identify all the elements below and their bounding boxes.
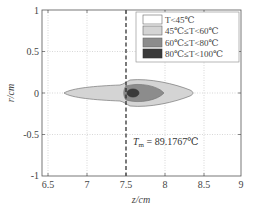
svg-text:9: 9 — [239, 179, 244, 190]
y-tick-labels: 1 0.5 0 -0.5 -1 — [23, 5, 39, 181]
contour-regions — [64, 80, 193, 107]
svg-text:6.5: 6.5 — [42, 179, 55, 190]
svg-text:0.5: 0.5 — [27, 46, 40, 57]
legend-label-below-45: T<45℃ — [165, 15, 195, 25]
legend: T<45℃ 45℃≤T<60℃ 60℃≤T<80℃ 80℃≤T<100℃ — [136, 12, 239, 62]
svg-text:7: 7 — [85, 179, 90, 190]
legend-label-80-100: 80℃≤T<100℃ — [165, 49, 223, 59]
svg-text:8: 8 — [163, 179, 168, 190]
legend-swatch-45-60 — [143, 26, 162, 35]
x-axis-label: z/cm — [131, 194, 150, 205]
svg-text:Tm = 89.1767℃: Tm = 89.1767℃ — [133, 136, 198, 149]
region-80-100 — [127, 89, 139, 97]
svg-text:-0.5: -0.5 — [23, 129, 39, 140]
legend-swatch-80-100 — [143, 49, 162, 58]
max-temperature-annotation: Tm = 89.1767℃ — [133, 136, 198, 149]
svg-text:1: 1 — [34, 5, 39, 16]
x-tick-labels: 6.5 7 7.5 8 8.5 9 — [42, 179, 244, 190]
legend-swatch-60-80 — [143, 38, 162, 47]
legend-label-60-80: 60℃≤T<80℃ — [165, 38, 219, 48]
svg-text:7.5: 7.5 — [120, 179, 133, 190]
svg-text:8.5: 8.5 — [198, 179, 211, 190]
svg-text:0: 0 — [34, 88, 39, 99]
contour-chart: 6.5 7 7.5 8 8.5 9 1 0.5 0 -0.5 -1 z/cm r… — [0, 0, 254, 214]
legend-swatch-below-45 — [143, 15, 162, 24]
y-axis-label: r/cm — [5, 84, 16, 102]
svg-text:-1: -1 — [31, 170, 39, 181]
legend-label-45-60: 45℃≤T<60℃ — [165, 26, 219, 36]
